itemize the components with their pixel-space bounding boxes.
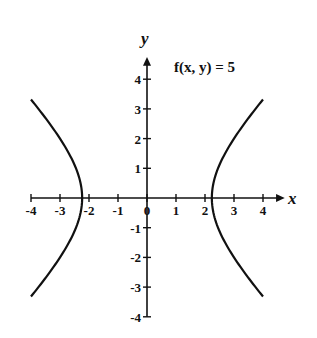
x-tick-label: -4 <box>26 203 37 218</box>
x-tick-label: -3 <box>55 203 66 218</box>
hyperbola-plot: -4-3-2-1012344321-1-2-3-4 f(x, y) = 5 x … <box>0 0 317 338</box>
x-tick-label: -2 <box>84 203 95 218</box>
y-axis-arrow-icon <box>143 57 151 66</box>
y-tick-label: 4 <box>135 72 142 87</box>
x-tick-label: 2 <box>202 203 209 218</box>
x-tick-label: -1 <box>113 203 124 218</box>
axes: -4-3-2-1012344321-1-2-3-4 <box>26 57 285 325</box>
x-tick-label: 4 <box>260 203 267 218</box>
y-tick-label: 1 <box>135 161 142 176</box>
x-tick-label: 3 <box>231 203 238 218</box>
chart-title: f(x, y) = 5 <box>174 59 235 76</box>
x-tick-label: 1 <box>173 203 180 218</box>
y-axis-label: y <box>139 29 149 48</box>
x-tick-label: 0 <box>144 203 151 218</box>
y-tick-label: 3 <box>135 102 142 117</box>
y-tick-label: 2 <box>135 132 142 147</box>
y-tick-label: -4 <box>130 310 141 325</box>
y-tick-label: -1 <box>130 221 141 236</box>
x-axis-label: x <box>287 189 297 208</box>
x-axis-arrow-icon <box>276 194 285 202</box>
y-tick-label: -3 <box>130 280 141 295</box>
y-tick-label: -2 <box>130 250 141 265</box>
